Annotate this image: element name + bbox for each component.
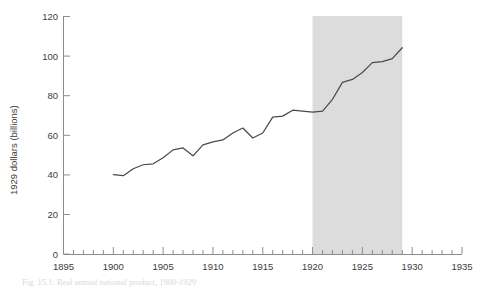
x-tick-label: 1900 (103, 261, 124, 272)
y-axis-title: 1929 dollars (billions) (8, 105, 19, 195)
y-axis-tick-labels: 120 100 80 60 40 20 0 (42, 11, 58, 260)
y-tick-label: 60 (47, 130, 58, 141)
figure-container: 120 100 80 60 40 20 0 1929 dollars (bill… (0, 0, 491, 288)
x-tick-label: 1910 (202, 261, 223, 272)
shaded-period-band (313, 16, 403, 254)
line-chart: 120 100 80 60 40 20 0 1929 dollars (bill… (0, 0, 491, 288)
x-axis-tick-labels: 189519001905191019151920192519301935 (53, 261, 473, 272)
x-tick-label: 1930 (402, 261, 423, 272)
y-tick-label: 80 (47, 90, 58, 101)
x-tick-label: 1935 (451, 261, 472, 272)
y-tick-label: 40 (47, 169, 58, 180)
x-tick-label: 1915 (252, 261, 273, 272)
y-tick-label: 0 (53, 249, 58, 260)
y-tick-label: 120 (42, 11, 58, 22)
x-tick-label: 1905 (153, 261, 174, 272)
y-tick-label: 20 (47, 209, 58, 220)
figure-caption: Fig. 15.1: Real annual national product,… (22, 276, 322, 288)
y-axis-ticks (64, 17, 71, 255)
x-tick-label: 1920 (302, 261, 323, 272)
y-tick-label: 100 (42, 51, 58, 62)
x-tick-label: 1925 (352, 261, 373, 272)
x-tick-label: 1895 (53, 261, 74, 272)
